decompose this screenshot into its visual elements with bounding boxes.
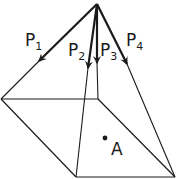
edge-p4 [127, 64, 175, 177]
label-p4: P4 [126, 30, 143, 53]
label-p1: P1 [25, 30, 42, 53]
edge-p3 [97, 63, 98, 99]
pyramid-diagram: P1 P2 P3 P4 A [0, 0, 180, 179]
label-p3: P3 [100, 40, 117, 63]
diagram-canvas: P1 P2 P3 P4 A [0, 0, 180, 179]
edge-p1 [1, 61, 39, 99]
point-a-label: A [111, 139, 123, 159]
label-p2: P2 [68, 40, 85, 63]
pyramid-lateral-edges [1, 61, 175, 177]
edge-p2 [76, 68, 88, 177]
point-a-dot-icon [103, 136, 108, 141]
arrow-p2-icon [88, 4, 97, 68]
pyramid-base [1, 99, 175, 177]
base-edge-left [1, 99, 76, 177]
base-edge-diagonal [98, 99, 175, 177]
